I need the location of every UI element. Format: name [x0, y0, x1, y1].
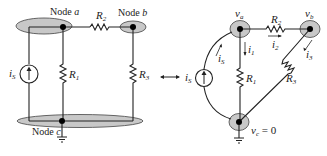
right-circuit: va vb vc = 0 R2 R1 R3 iS i1 i2 i3 iS [185, 7, 320, 143]
node-c-dot [59, 118, 65, 124]
circuit-diagram: Node a Node b Node c R2 R1 R3 iS [0, 0, 327, 156]
r3-label-right: R3 [285, 72, 297, 86]
node-vb-dot [307, 26, 313, 32]
arrow-i1-icon [244, 42, 247, 56]
resistor-r1 [60, 27, 66, 121]
node-b-label: Node b [118, 7, 147, 18]
node-c-label: Node c [32, 126, 61, 137]
node-a-label: Node a [50, 6, 79, 17]
node-b-dot [130, 24, 136, 30]
is-label-right: iS [185, 71, 192, 85]
wire-source-arc-bottom [204, 87, 231, 119]
r1-label: R1 [68, 68, 79, 82]
node-a-dot [60, 24, 66, 30]
resistor-r2-right [240, 26, 310, 32]
resistor-r1-right [237, 29, 243, 122]
r3-label: R3 [138, 68, 150, 82]
resistor-r3 [130, 27, 136, 121]
i1-label: i1 [248, 43, 255, 57]
r2-label: R2 [95, 9, 107, 23]
i3-label: i3 [306, 48, 313, 62]
left-circuit: Node a Node b Node c R2 R1 R3 iS [9, 6, 150, 142]
node-vc-dot [236, 119, 242, 125]
r2-label-right: R2 [270, 13, 282, 27]
i2-label: i2 [272, 38, 279, 52]
node-va-dot [237, 26, 243, 32]
is-current-label: iS [218, 52, 225, 66]
vc-label: vc = 0 [251, 124, 277, 138]
r1-label-right: R1 [245, 72, 256, 86]
vb-label: vb [305, 7, 314, 21]
double-arrow-icon [160, 75, 180, 79]
is-label: iS [9, 67, 16, 81]
va-label: va [235, 7, 244, 21]
